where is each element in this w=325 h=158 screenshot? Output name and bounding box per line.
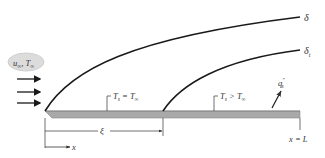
xi-dimension: ξ <box>45 118 163 148</box>
freestream-label: u∞, T∞ <box>8 53 44 71</box>
delta-t-label: δt <box>304 45 311 58</box>
x-axis-label: x <box>71 142 76 152</box>
heated-region-label: Ts > T∞ <box>214 91 246 111</box>
xi-label: ξ <box>100 126 104 136</box>
flat-plate <box>45 111 300 118</box>
plate-end-marker: x = L <box>288 118 308 144</box>
svg-text:q″s: q″s <box>278 77 285 89</box>
heat-flux-arrow-icon <box>272 91 281 108</box>
svg-text:Ts > T∞: Ts > T∞ <box>220 91 246 102</box>
x-axis: x <box>45 142 76 152</box>
svg-text:Ts = T∞: Ts = T∞ <box>113 91 139 102</box>
flat-plate-diagram: u∞, T∞ δ δt Ts = T∞ Ts > T∞ q″s <box>0 0 325 158</box>
flow-arrows <box>17 79 40 103</box>
x-equals-L-label: x = L <box>288 134 308 144</box>
unheated-region-label: Ts = T∞ <box>107 91 139 111</box>
heat-flux: q″s <box>272 77 285 108</box>
delta-label: δ <box>304 12 309 23</box>
velocity-boundary-layer-curve <box>45 17 300 111</box>
